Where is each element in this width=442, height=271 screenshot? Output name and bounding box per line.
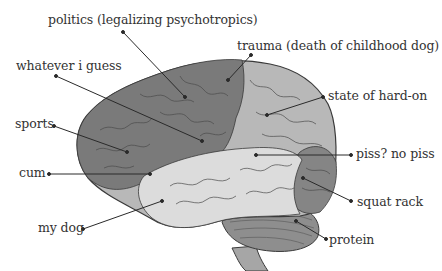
label-whatever: whatever i guess xyxy=(16,60,122,73)
label-sports: sports xyxy=(15,118,54,131)
label-piss: piss? no piss xyxy=(356,148,435,161)
label-mydog: my dog xyxy=(38,222,84,235)
label-politics: politics (legalizing psychotropics) xyxy=(48,14,258,27)
brain-diagram: politics (legalizing psychotropics) trau… xyxy=(0,0,442,271)
label-hardon: state of hard-on xyxy=(328,90,427,103)
label-protein: protein xyxy=(329,234,374,247)
label-trauma: trauma (death of childhood dog) xyxy=(237,40,439,53)
label-squat: squat rack xyxy=(357,196,423,209)
label-cum: cum xyxy=(19,167,46,180)
